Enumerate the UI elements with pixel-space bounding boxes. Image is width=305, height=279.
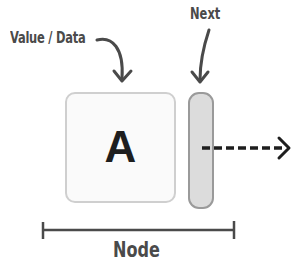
node-bracket-icon <box>43 221 234 239</box>
node-label: Node <box>113 238 160 262</box>
